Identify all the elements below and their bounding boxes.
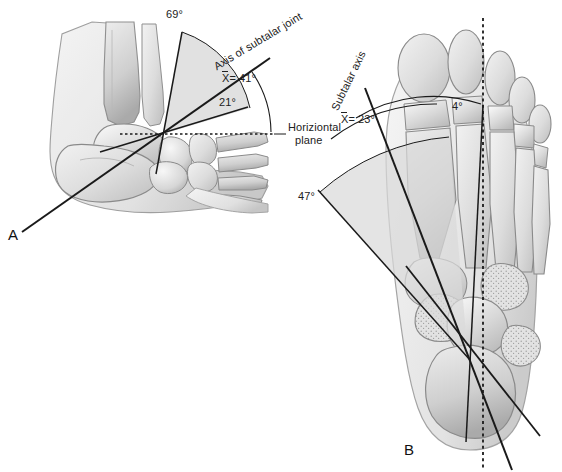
- metatarsal-2: [218, 154, 268, 172]
- label-angle-21-deg: 21°: [219, 96, 236, 109]
- mean-symbol-a: X: [222, 72, 229, 85]
- panel-label-b: B: [404, 441, 415, 458]
- metatarsal-1: [216, 132, 268, 152]
- mean-value-b: = 23°: [348, 113, 375, 125]
- label-angle-47-deg: 47°: [298, 190, 315, 203]
- angle-range-wedge-b: [320, 137, 468, 358]
- panel-label-a: A: [8, 226, 19, 243]
- mean-symbol-b: X: [341, 113, 348, 126]
- label-mean-angle-b: X= 23°: [341, 113, 375, 126]
- label-angle-4-deg: 4°: [452, 100, 463, 113]
- metatarsal-3: [218, 176, 268, 190]
- horizontal-plane-line-1: Horiziontal: [288, 121, 341, 133]
- mean-value-a: = 41°: [229, 72, 256, 84]
- label-mean-angle-a: X= 41°: [222, 72, 256, 85]
- fibula: [142, 24, 164, 126]
- subtalar-axis-figure: [0, 0, 562, 472]
- cuboid: [149, 162, 187, 194]
- tibia: [104, 22, 140, 126]
- cuneiform-medial: [189, 134, 216, 166]
- label-angle-69-deg: 69°: [166, 8, 183, 21]
- horizontal-plane-line-2: plane: [288, 134, 322, 147]
- label-horizontal-plane: Horiziontal plane: [288, 121, 341, 147]
